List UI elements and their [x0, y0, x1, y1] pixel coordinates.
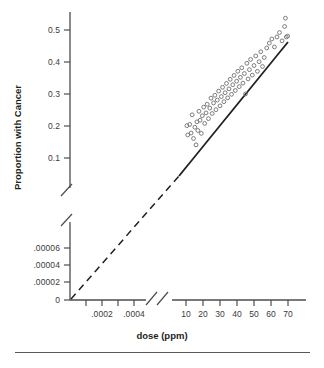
- x-tick-label: .0004: [116, 309, 152, 319]
- y-axis-title: Proportion with Cancer: [12, 85, 23, 190]
- scatter-point: [199, 131, 203, 135]
- scatter-point: [246, 77, 250, 81]
- scatter-point: [228, 77, 232, 81]
- scatter-point: [200, 114, 204, 118]
- scatter-point: [215, 98, 219, 102]
- fit-line-dashed-segment: [71, 176, 179, 299]
- scatter-point: [221, 85, 225, 89]
- scatter-point: [214, 108, 218, 112]
- y-tick-label: .00006: [24, 243, 60, 253]
- scatter-point: [194, 143, 198, 147]
- y-axis-ticks-lower: [64, 248, 70, 300]
- x-axis-break-icon: [146, 292, 168, 305]
- footer-divider: [15, 352, 310, 353]
- y-tick-label: .00002: [24, 277, 60, 287]
- scatter-point: [192, 137, 196, 141]
- x-tick-label: 70: [276, 309, 300, 319]
- fit-line: [71, 42, 288, 299]
- x-axis-ticks-low: [86, 300, 134, 306]
- scatter-point: [230, 92, 234, 96]
- scatter-point: [239, 75, 243, 79]
- scatter-point: [275, 35, 279, 39]
- scatter-point: [257, 60, 261, 64]
- scatter-point: [210, 112, 214, 116]
- scatter-point: [248, 68, 252, 72]
- scatter-point: [223, 91, 227, 95]
- scatter-point: [207, 117, 211, 121]
- scatter-point: [219, 95, 223, 99]
- scatter-point: [252, 64, 256, 68]
- scatter-point: [233, 89, 237, 93]
- y-tick-label: 0.2: [34, 121, 60, 131]
- scatter-point: [241, 81, 245, 85]
- scatter-point: [284, 16, 288, 20]
- scatter-point: [227, 87, 231, 91]
- y-tick-label: .00004: [24, 260, 60, 270]
- scatter-point: [222, 100, 226, 104]
- scatter-point: [256, 69, 260, 73]
- scatter-point: [240, 66, 244, 70]
- scatter-point: [280, 39, 284, 43]
- scatter-point: [198, 118, 202, 122]
- scatter-point: [245, 61, 249, 65]
- fit-line-solid-segment: [179, 42, 288, 176]
- scatter-point: [231, 83, 235, 87]
- scatter-point: [259, 50, 263, 54]
- scatter-point: [197, 109, 201, 113]
- scatter-point: [265, 46, 269, 50]
- scatter-point: [237, 85, 241, 89]
- scatter-point: [212, 101, 216, 105]
- scatter-point: [235, 79, 239, 83]
- scatter-point: [217, 89, 221, 93]
- scatter-point: [273, 45, 277, 49]
- scatter-point: [225, 82, 229, 86]
- y-axis-break-icon: [61, 184, 72, 226]
- scatter-point: [254, 54, 258, 58]
- scatter-point: [283, 25, 287, 29]
- scatter-point: [205, 102, 209, 106]
- y-tick-label: 0.5: [34, 25, 60, 35]
- y-axis-ticks-upper: [64, 30, 70, 158]
- scatter-point: [208, 106, 212, 110]
- chart-figure: 0.5 0.4 0.3 0.2 0.1 .00006 .00004 .00002…: [0, 0, 324, 368]
- scatter-point: [189, 131, 193, 135]
- scatter-point: [218, 104, 222, 108]
- scatter-point: [250, 73, 254, 77]
- scatter-point: [267, 41, 271, 45]
- scatter-point: [270, 37, 274, 41]
- y-tick-label: 0: [24, 295, 60, 305]
- scatter-point: [209, 96, 213, 100]
- scatter-point: [261, 65, 265, 69]
- scatter-point: [190, 113, 194, 117]
- y-tick-label: 0.3: [34, 89, 60, 99]
- scatter-point: [213, 93, 217, 97]
- scatter-point: [202, 105, 206, 109]
- scatter-point: [204, 111, 208, 115]
- axes-group: [61, 12, 306, 306]
- scatter-point: [226, 96, 230, 100]
- scatter-point: [249, 58, 253, 62]
- x-axis-title: dose (ppm): [0, 330, 324, 341]
- x-axis-ticks-high: [186, 300, 288, 306]
- y-tick-label: 0.4: [34, 57, 60, 67]
- scatter-point: [203, 122, 207, 126]
- x-tick-label: .0002: [84, 309, 120, 319]
- scatter-point: [193, 125, 197, 129]
- y-tick-label: 0.1: [34, 153, 60, 163]
- scatter-point: [196, 129, 200, 133]
- scatter-point: [236, 69, 240, 73]
- scatter-point: [278, 31, 282, 35]
- scatter-point: [242, 72, 246, 76]
- scatter-point: [262, 56, 266, 60]
- scatter-point: [232, 74, 236, 78]
- scatter-points: [185, 16, 290, 147]
